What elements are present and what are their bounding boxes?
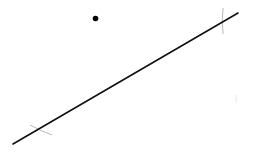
diagram-canvas	[0, 0, 253, 154]
point-above-line	[93, 16, 99, 22]
straight-line	[13, 13, 238, 144]
construction-figure	[0, 0, 253, 154]
compass-arc-lower-left	[30, 125, 52, 135]
